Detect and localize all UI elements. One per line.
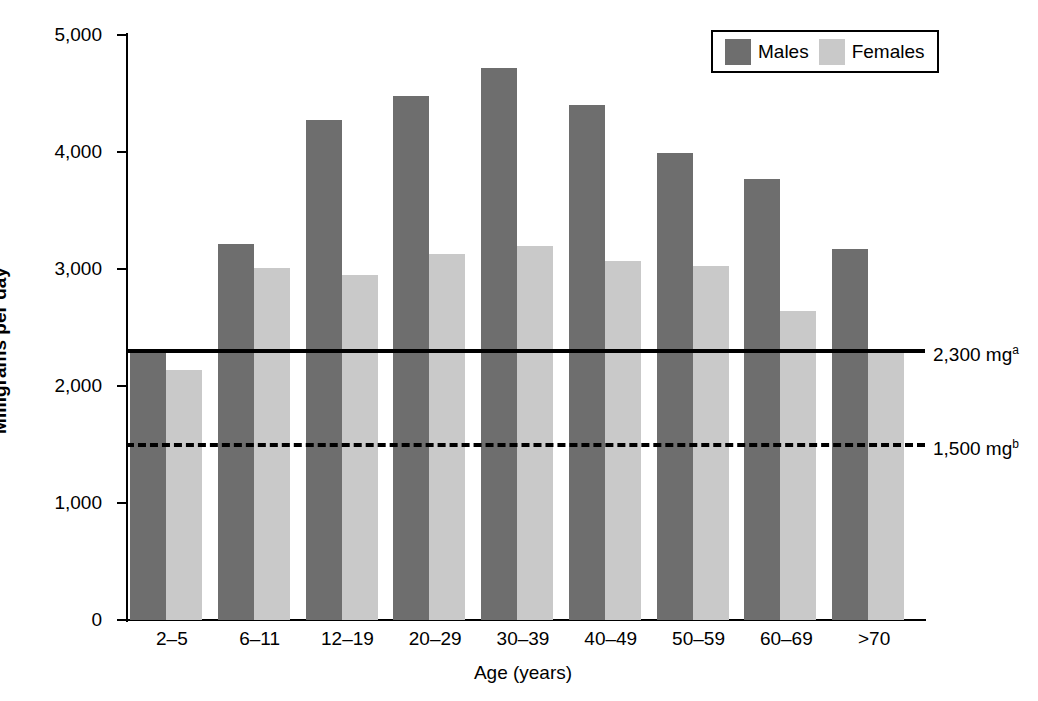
- y-axis-tick: [117, 34, 128, 36]
- y-axis-tick: [117, 151, 128, 153]
- x-axis-tick-label: 30–39: [479, 628, 567, 650]
- legend-label-females: Females: [852, 42, 925, 61]
- bar-males: [832, 249, 868, 620]
- y-axis-tick-label: 0: [0, 610, 110, 629]
- bar-females: [517, 246, 553, 620]
- bar-males: [393, 96, 429, 620]
- y-axis-tick: [117, 619, 128, 621]
- legend-entry-males: Males: [725, 39, 809, 65]
- x-axis-tick-label: 12–19: [304, 628, 392, 650]
- reference-line-footnote-marker: a: [1012, 343, 1019, 357]
- y-axis-tick-label: 1,000: [0, 493, 110, 512]
- legend-swatch-males-icon: [725, 39, 751, 65]
- bar-females: [868, 351, 904, 620]
- legend-swatch-females-icon: [819, 39, 845, 65]
- bar-females: [166, 370, 202, 620]
- sodium-intake-bar-chart: Milligrams per day 01,0002,0003,0004,000…: [0, 0, 1038, 701]
- x-axis-tick-label: 40–49: [567, 628, 655, 650]
- bar-males: [569, 105, 605, 620]
- reference-line-footnote-marker: b: [1012, 437, 1019, 451]
- x-axis-title: Age (years): [128, 662, 918, 684]
- y-axis-tick-label: 4,000: [0, 142, 110, 161]
- legend-label-males: Males: [758, 42, 809, 61]
- y-axis-tick-labels: 01,0002,0003,0004,0005,000: [0, 0, 110, 701]
- reference-line-2300: [126, 349, 925, 353]
- y-axis-tick-label: 2,000: [0, 376, 110, 395]
- x-axis-tick-label: >70: [830, 628, 918, 650]
- reference-line-label-1500: 1,500 mgb: [933, 435, 1019, 458]
- bar-males: [218, 244, 254, 620]
- chart-legend: Males Females: [711, 30, 939, 73]
- y-axis-tick-label: 3,000: [0, 259, 110, 278]
- x-axis-tick-label: 50–59: [655, 628, 743, 650]
- bar-series-container: [128, 35, 918, 620]
- bar-males: [657, 153, 693, 620]
- bar-males: [306, 120, 342, 620]
- x-axis-tick-label: 20–29: [391, 628, 479, 650]
- y-axis-tick-label: 5,000: [0, 25, 110, 44]
- x-axis-tick-label: 2–5: [128, 628, 216, 650]
- reference-line-label-2300: 2,300 mga: [933, 341, 1019, 364]
- legend-entry-females: Females: [819, 39, 925, 65]
- y-axis-tick: [117, 268, 128, 270]
- reference-line-1500: [126, 443, 925, 447]
- y-axis-tick: [117, 385, 128, 387]
- bar-males: [130, 352, 166, 620]
- x-axis-tick-label: 60–69: [742, 628, 830, 650]
- x-axis-tick-label: 6–11: [216, 628, 304, 650]
- x-axis-tick-labels: 2–56–1112–1920–2930–3940–4950–5960–69>70: [128, 628, 918, 654]
- bar-females: [780, 311, 816, 620]
- y-axis-tick: [117, 502, 128, 504]
- bar-females: [429, 254, 465, 620]
- bar-males: [744, 179, 780, 620]
- bar-females: [605, 261, 641, 620]
- bar-females: [342, 275, 378, 620]
- bar-males: [481, 68, 517, 620]
